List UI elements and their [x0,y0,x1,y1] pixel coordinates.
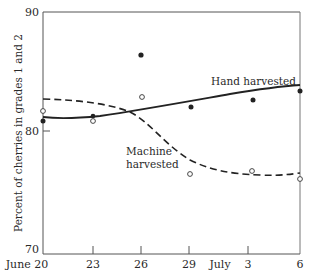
x-tick-july: July [208,258,231,271]
x-axis: June 20 23 26 29 July 3 6 [5,246,304,271]
y-axis-label: Percent of cherries in grades 1 and 2 [12,34,24,232]
hand-harvested-label: Hand harvested [211,75,296,87]
y-axis: 90 80 70 Percent of cherries in grades 1… [12,6,50,256]
x-tick-3: 3 [245,258,252,271]
x-tick-23: 23 [86,258,100,271]
hand-harvested-points [41,52,303,123]
x-tick-26: 26 [134,258,148,271]
x-tick-june20: June 20 [5,258,49,271]
y-tick-90: 90 [25,6,39,19]
chart: 90 80 70 Percent of cherries in grades 1… [0,0,311,280]
machine-harvested-label-line2: harvested [126,158,179,170]
machine-harvested-label-line1: Machine [126,145,172,157]
y-tick-70: 70 [25,243,39,256]
x-tick-6: 6 [297,258,304,271]
x-tick-29: 29 [182,258,196,271]
plot-frame [43,12,300,254]
y-tick-80: 80 [25,125,39,138]
